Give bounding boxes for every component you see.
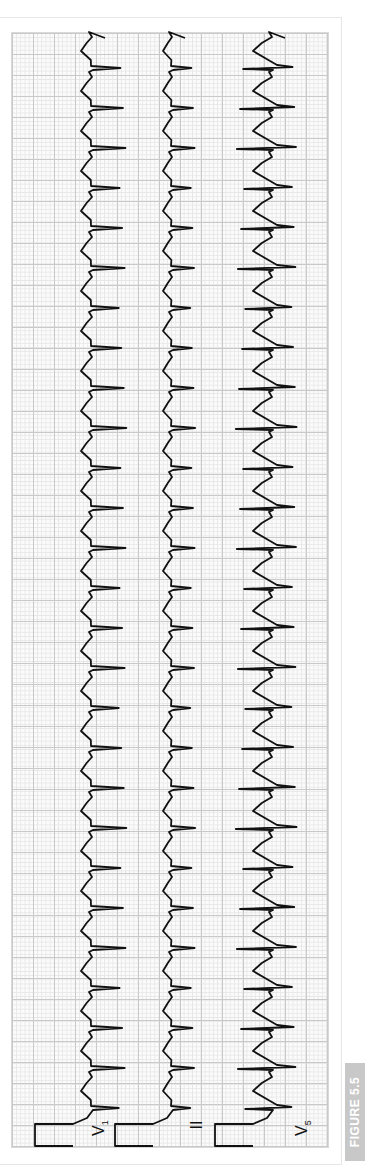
ecg-trace-v1 (35, 32, 126, 1146)
lead-label-ii: II (188, 1121, 206, 1130)
figure-label-tag: FIGURE 5.5 (345, 1063, 365, 1161)
lead-label-v1: V1 (90, 1120, 110, 1136)
ecg-trace-v5 (215, 32, 297, 1146)
ecg-traces (0, 0, 367, 1169)
ecg-trace-ii (115, 32, 195, 1146)
lead-label-v5: V5 (293, 1120, 313, 1136)
figure-label: FIGURE 5.5 (348, 1077, 362, 1147)
